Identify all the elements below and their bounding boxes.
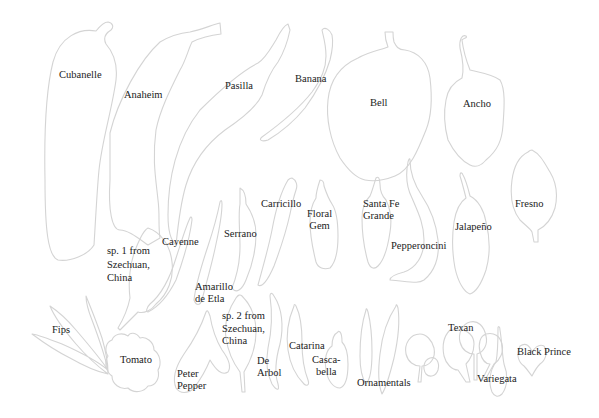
pepper-diagram: Cubanelle Anaheim Pasilla Banana Bell An… bbox=[0, 0, 599, 418]
label-variegata: Variegata bbox=[477, 373, 517, 385]
label-catarina: Catarina bbox=[289, 340, 325, 352]
label-pasilla: Pasilla bbox=[225, 80, 253, 92]
cubanelle-outline bbox=[45, 22, 117, 260]
label-ancho: Ancho bbox=[463, 98, 491, 110]
label-cascabella: Casca- bella bbox=[312, 354, 341, 377]
label-santa-fe-grande: Santa Fe Grande bbox=[363, 198, 399, 221]
label-fresno: Fresno bbox=[515, 198, 544, 210]
label-sp2-szechuan: sp. 2 from Szechuan, China bbox=[222, 310, 265, 348]
label-pepperoncini: Pepperoncini bbox=[391, 240, 446, 252]
label-tomato: Tomato bbox=[120, 354, 152, 366]
fresno-outline bbox=[511, 150, 556, 242]
label-de-arbol: De Arbol bbox=[257, 355, 282, 378]
label-banana: Banana bbox=[295, 73, 327, 85]
anaheim-outline bbox=[109, 23, 221, 245]
label-floral-gem: Floral Gem bbox=[307, 208, 332, 231]
banana-outline bbox=[260, 28, 332, 140]
variegata-outline bbox=[490, 327, 507, 396]
label-ornamentals: Ornamentals bbox=[357, 377, 411, 389]
label-cayenne: Cayenne bbox=[162, 236, 199, 248]
label-fips: Fips bbox=[52, 324, 70, 336]
label-amarillo-de-etla: Amarillo de Etla bbox=[195, 281, 233, 304]
label-serrano: Serrano bbox=[224, 228, 257, 240]
carricillo-outline bbox=[258, 178, 297, 286]
santa-fe-grande-outline bbox=[362, 177, 391, 268]
jalapeno-outline bbox=[453, 173, 489, 294]
label-bell: Bell bbox=[370, 97, 388, 109]
label-jalapeno: Jalapeño bbox=[455, 221, 492, 233]
label-texan: Texan bbox=[448, 322, 474, 334]
label-carricillo: Carricillo bbox=[261, 198, 301, 210]
label-peter-pepper: Peter Pepper bbox=[177, 368, 206, 391]
label-black-prince: Black Prince bbox=[517, 346, 571, 358]
label-cubanelle: Cubanelle bbox=[59, 69, 102, 81]
label-anaheim: Anaheim bbox=[124, 89, 163, 101]
label-sp1-szechuan: sp. 1 from Szechuan, China bbox=[107, 244, 150, 285]
